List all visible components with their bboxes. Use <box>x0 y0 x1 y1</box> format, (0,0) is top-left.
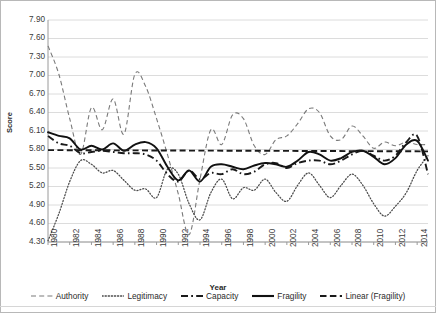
dashdot-line-icon <box>181 292 203 300</box>
series-line-fragility <box>48 132 428 181</box>
plot-area <box>0 0 436 313</box>
x-tick-label: 2004 <box>312 229 320 247</box>
solid-line-icon <box>252 292 274 300</box>
legend-label: Capacity <box>206 292 238 300</box>
x-tick-label: 1986 <box>117 229 125 247</box>
x-tick-label: 1982 <box>73 229 81 247</box>
x-tick-label: 2012 <box>399 229 407 247</box>
x-tick-label: 1992 <box>182 229 190 247</box>
legend-entry[interactable]: Linear (Fragility) <box>320 292 405 300</box>
fragility-score-line-chart: Score 7.907.607.307.006.706.406.105.805.… <box>0 0 436 313</box>
legend-entry[interactable]: Authority <box>31 292 89 300</box>
dotted-line-icon <box>102 292 124 300</box>
legend-label: Fragility <box>277 292 306 300</box>
series-line-linear-fragility <box>48 150 428 151</box>
dashed-bold-line-icon <box>320 292 342 300</box>
x-tick-label: 2014 <box>421 229 429 247</box>
gridlines <box>48 20 428 242</box>
chart-legend: AuthorityLegitimacyCapacityFragilityLine… <box>0 292 436 300</box>
x-tick-label: 2006 <box>334 229 342 247</box>
legend-entry[interactable]: Legitimacy <box>102 292 167 300</box>
legend-label: Authority <box>56 292 89 300</box>
series-line-authority <box>48 46 428 235</box>
legend-label: Linear (Fragility) <box>345 292 405 300</box>
x-tick-label: 1984 <box>95 229 103 247</box>
legend-entry[interactable]: Fragility <box>252 292 306 300</box>
series-line-capacity <box>48 134 428 181</box>
x-tick-label: 1988 <box>138 229 146 247</box>
x-tick-label: 1996 <box>225 229 233 247</box>
legend-entry[interactable]: Capacity <box>181 292 238 300</box>
x-tick-label: 1994 <box>203 229 211 247</box>
legend-divider <box>0 306 436 307</box>
x-tick-label: 1990 <box>160 229 168 247</box>
x-tick-label: 2002 <box>290 229 298 247</box>
x-tick-label: 2008 <box>355 229 363 247</box>
x-tick-label: 2010 <box>377 229 385 247</box>
x-tick-label: 1998 <box>247 229 255 247</box>
x-tick-label: 1980 <box>51 229 59 247</box>
x-tick-label: 2000 <box>269 229 277 247</box>
dashed-line-icon <box>31 292 53 300</box>
legend-label: Legitimacy <box>127 292 167 300</box>
